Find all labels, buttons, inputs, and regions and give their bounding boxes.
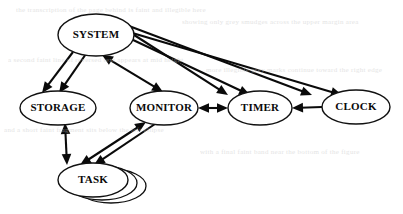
arrow-head-icon bbox=[292, 103, 303, 113]
node-label-system: SYSTEM bbox=[73, 28, 120, 40]
edge-monitor-to-task bbox=[87, 127, 139, 161]
arrow-head-icon bbox=[216, 85, 228, 95]
node-clock[interactable]: CLOCK bbox=[322, 90, 390, 124]
node-label-clock: CLOCK bbox=[335, 100, 377, 112]
node-label-task: TASK bbox=[78, 173, 108, 185]
node-timer[interactable]: TIMER bbox=[228, 91, 292, 125]
edge-clock-to-timer bbox=[300, 107, 322, 108]
arrow-head-icon bbox=[300, 87, 312, 96]
node-label-timer: TIMER bbox=[241, 101, 280, 113]
node-label-storage: STORAGE bbox=[31, 101, 86, 113]
edge-system-to-storage bbox=[47, 52, 73, 86]
edge-monitor-to-task bbox=[101, 124, 155, 160]
edge-system-to-clock bbox=[129, 32, 334, 93]
edge-storage-to-task bbox=[65, 131, 66, 157]
edge-system-to-storage bbox=[64, 51, 88, 86]
node-monitor[interactable]: MONITOR bbox=[130, 91, 198, 125]
arrow-head-icon bbox=[102, 55, 114, 65]
arrow-head-icon bbox=[198, 103, 209, 113]
node-storage[interactable]: STORAGE bbox=[20, 91, 96, 125]
node-system[interactable]: SYSTEM bbox=[58, 14, 134, 56]
arrow-head-icon bbox=[217, 103, 228, 113]
diagram-canvas: SYSTEMSTORAGEMONITORTIMERCLOCKTASK the t… bbox=[0, 0, 403, 214]
edge-system-to-clock bbox=[129, 26, 304, 92]
graph-svg: SYSTEMSTORAGEMONITORTIMERCLOCKTASK bbox=[0, 0, 403, 214]
node-task[interactable]: TASK bbox=[58, 163, 146, 203]
node-label-monitor: MONITOR bbox=[136, 101, 193, 113]
edge-system-to-monitor bbox=[109, 59, 156, 87]
arrow-head-icon bbox=[62, 154, 72, 165]
